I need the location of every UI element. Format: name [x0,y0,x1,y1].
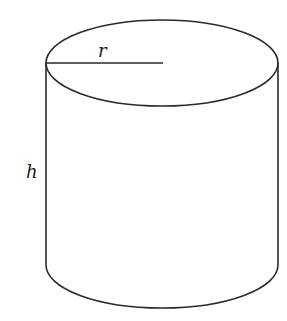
cylinder-bottom-arc [46,265,278,308]
cylinder-diagram: r h [0,0,287,321]
radius-label: r [98,40,108,61]
height-label: h [26,161,38,182]
